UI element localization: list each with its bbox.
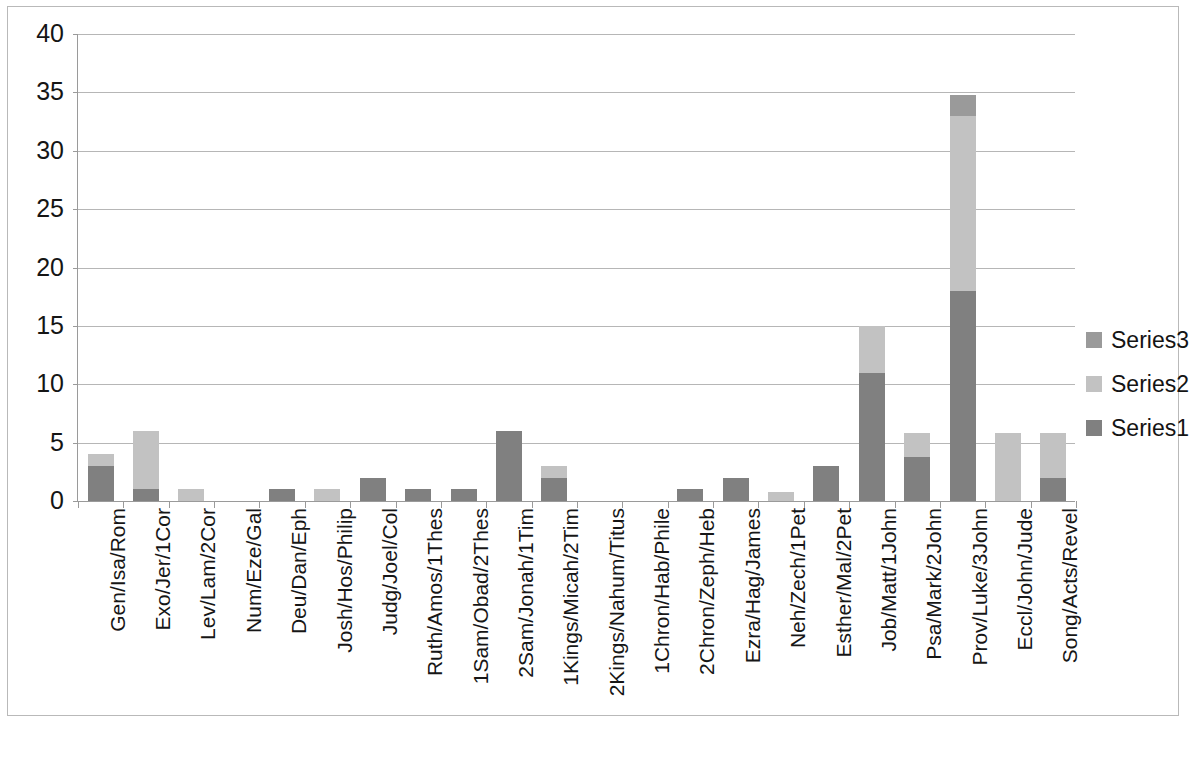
bar-segment-series1	[360, 478, 386, 501]
bar-stack[interactable]	[813, 466, 839, 501]
x-axis-tick	[668, 501, 669, 508]
bar-stack[interactable]	[768, 492, 794, 501]
x-axis-label-wrap: Song/Acts/Revel	[1052, 508, 1073, 663]
bar-stack[interactable]	[859, 326, 885, 501]
x-axis-tick-label: 2Chron/Zeph/Heb	[696, 508, 717, 675]
page-footer-artifact	[6, 742, 706, 762]
bar-slot	[713, 34, 758, 501]
x-axis-labels: Gen/Isa/RomExo/Jer/1CorLev/Lam/2CorNum/E…	[77, 508, 1075, 708]
x-axis-label-wrap: 2Sam/Jonah/1Tim	[508, 508, 529, 678]
x-axis-label-wrap: Deu/Dan/Eph	[281, 508, 302, 634]
bar-slot	[758, 34, 803, 501]
x-axis-tick-label: Gen/Isa/Rom	[107, 508, 128, 632]
bar-stack[interactable]	[314, 489, 340, 501]
x-axis-label-wrap: Lev/Lam/2Cor	[190, 508, 211, 640]
x-axis-tick-label: Josh/Hos/Philip	[334, 508, 355, 653]
bar-stack[interactable]	[178, 489, 204, 501]
bar-segment-series1	[405, 489, 431, 501]
bar-stack[interactable]	[995, 433, 1021, 501]
y-axis-tick-label: 15	[36, 313, 64, 338]
bar-segment-series1	[723, 478, 749, 501]
x-axis-tick	[259, 501, 260, 508]
x-axis-tick	[214, 501, 215, 508]
bar-segment-series1	[451, 489, 477, 501]
x-axis-tick-label: Psa/Mark/2John	[923, 508, 944, 660]
bar-segment-series1	[677, 489, 703, 501]
bars-layer	[78, 34, 1075, 501]
bar-stack[interactable]	[1040, 433, 1066, 501]
bar-stack[interactable]	[541, 466, 567, 501]
x-axis-tick	[849, 501, 850, 508]
bar-stack[interactable]	[269, 489, 295, 501]
bar-segment-series1	[813, 466, 839, 501]
bar-stack[interactable]	[405, 489, 431, 501]
x-axis-tick	[486, 501, 487, 508]
x-axis-tick-label: Judg/Joel/Col	[379, 508, 400, 635]
x-axis-tick	[78, 501, 79, 508]
legend-swatch-icon	[1086, 376, 1102, 392]
plot-area	[77, 34, 1075, 501]
bar-slot	[78, 34, 123, 501]
bar-slot	[486, 34, 531, 501]
bar-stack[interactable]	[677, 489, 703, 501]
legend-item[interactable]: Series2	[1086, 362, 1182, 406]
x-axis-tick	[1031, 501, 1032, 508]
x-axis-tick	[441, 501, 442, 508]
bar-slot	[577, 34, 622, 501]
x-axis-label-wrap: Ruth/Amos/1Thes	[417, 508, 438, 676]
legend-swatch-icon	[1086, 332, 1102, 348]
x-axis-label-wrap: Exo/Jer/1Cor	[145, 508, 166, 631]
x-axis-tick	[350, 501, 351, 508]
bar-slot	[441, 34, 486, 501]
bar-stack[interactable]	[88, 454, 114, 501]
legend-item[interactable]: Series1	[1086, 406, 1182, 450]
y-axis-tick-label: 30	[36, 138, 64, 163]
bar-slot	[169, 34, 214, 501]
bar-slot	[214, 34, 259, 501]
x-axis-label-wrap: Josh/Hos/Philip	[327, 508, 348, 653]
x-axis-tick-label: Prov/Luke/3John	[969, 508, 990, 666]
bar-stack[interactable]	[496, 431, 522, 501]
bar-slot	[259, 34, 304, 501]
bar-stack[interactable]	[133, 431, 159, 501]
chart-legend: Series3Series2Series1	[1086, 318, 1182, 450]
x-axis-tick-label: 1Kings/Micah/2Tim	[560, 508, 581, 686]
x-axis-label-wrap: Ezra/Hag/James	[735, 508, 756, 663]
bar-segment-series2	[314, 489, 340, 501]
bar-stack[interactable]	[360, 478, 386, 501]
x-axis-tick-label: Deu/Dan/Eph	[288, 508, 309, 634]
x-axis-tick-label: 2Kings/Nahum/Titus	[606, 508, 627, 696]
bar-stack[interactable]	[950, 95, 976, 501]
bar-segment-series2	[541, 466, 567, 478]
y-axis-labels: 0510152025303540	[0, 34, 64, 501]
bar-stack[interactable]	[723, 478, 749, 501]
bar-segment-series3	[950, 95, 976, 116]
bar-segment-series1	[541, 478, 567, 501]
x-axis-label-wrap: Num/Eze/Gal	[236, 508, 257, 633]
x-axis-tick-label: Song/Acts/Revel	[1059, 508, 1080, 663]
x-axis-tick-label: Exo/Jer/1Cor	[152, 508, 173, 631]
bar-slot	[849, 34, 894, 501]
x-axis-tick-label: Num/Eze/Gal	[243, 508, 264, 633]
bar-segment-series2	[133, 431, 159, 489]
bar-segment-series2	[1040, 433, 1066, 477]
x-axis-tick-label: Ezra/Hag/James	[742, 508, 763, 663]
x-axis-label-wrap: 1Kings/Micah/2Tim	[553, 508, 574, 686]
bar-segment-series1	[496, 431, 522, 501]
bar-segment-series2	[995, 433, 1021, 501]
y-axis-tick-label: 20	[36, 255, 64, 280]
legend-item[interactable]: Series3	[1086, 318, 1182, 362]
x-axis-label-wrap: Psa/Mark/2John	[916, 508, 937, 660]
bar-stack[interactable]	[451, 489, 477, 501]
bar-slot	[668, 34, 713, 501]
bar-stack[interactable]	[904, 433, 930, 501]
x-axis-tick	[1076, 501, 1077, 508]
legend-label: Series3	[1111, 329, 1189, 352]
y-axis-tick-label: 5	[50, 430, 64, 455]
x-axis-label-wrap: Judg/Joel/Col	[372, 508, 393, 635]
x-axis-tick-label: Ruth/Amos/1Thes	[424, 508, 445, 676]
x-axis-tick	[895, 501, 896, 508]
x-axis-tick-label: Job/Matt/1John	[878, 508, 899, 652]
x-axis-label-wrap: Esther/Mal/2Pet	[826, 508, 847, 657]
